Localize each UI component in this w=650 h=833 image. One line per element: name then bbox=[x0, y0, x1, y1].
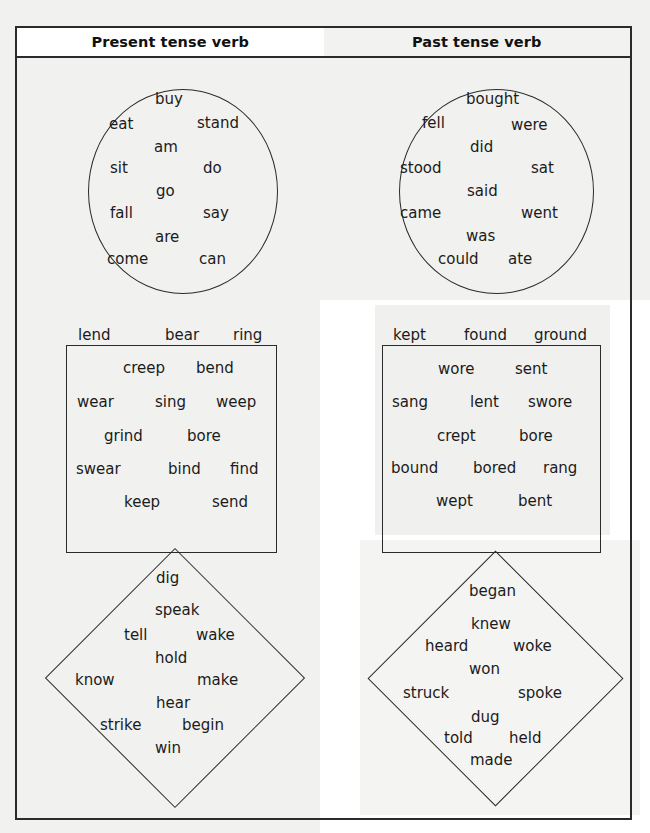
verb-word: ring bbox=[233, 328, 262, 343]
verb-word: lent bbox=[470, 395, 499, 410]
verb-word: keep bbox=[124, 495, 160, 510]
verb-word: held bbox=[509, 731, 541, 746]
verb-word: creep bbox=[123, 361, 165, 376]
verb-word: found bbox=[464, 328, 507, 343]
verb-word: weep bbox=[216, 395, 256, 410]
verb-word: rang bbox=[543, 461, 577, 476]
verb-word: wept bbox=[436, 494, 473, 509]
verb-word: sit bbox=[110, 161, 128, 176]
verb-word: begin bbox=[182, 718, 224, 733]
table-header-row: Present tense verb Past tense verb bbox=[17, 28, 630, 58]
verb-word: dig bbox=[156, 571, 179, 586]
verb-word: speak bbox=[155, 603, 199, 618]
verb-word: won bbox=[469, 662, 500, 677]
verb-word: ate bbox=[508, 252, 532, 267]
verb-word: wake bbox=[196, 628, 235, 643]
verb-word: are bbox=[155, 230, 179, 245]
verb-word: heard bbox=[425, 639, 468, 654]
verb-word: did bbox=[470, 140, 493, 155]
verb-word: kept bbox=[393, 328, 426, 343]
verb-word: make bbox=[197, 673, 238, 688]
verb-word: hear bbox=[156, 696, 190, 711]
verb-word: bored bbox=[473, 461, 516, 476]
verb-word: dug bbox=[471, 710, 500, 725]
verb-word: sing bbox=[155, 395, 186, 410]
verb-word: said bbox=[467, 184, 498, 199]
verb-word: fall bbox=[110, 206, 133, 221]
verb-word: go bbox=[156, 184, 175, 199]
verb-word: wore bbox=[438, 362, 475, 377]
verb-word: crept bbox=[437, 429, 476, 444]
verb-word: win bbox=[155, 741, 181, 756]
verb-word: told bbox=[444, 731, 473, 746]
verb-word: were bbox=[511, 118, 548, 133]
verb-word: strike bbox=[100, 718, 141, 733]
verb-word: find bbox=[230, 462, 258, 477]
verb-word: grind bbox=[104, 429, 143, 444]
verb-word: sent bbox=[515, 362, 547, 377]
verb-word: know bbox=[75, 673, 115, 688]
verb-word: can bbox=[199, 252, 226, 267]
verb-table-frame: Present tense verb Past tense verb buyea… bbox=[15, 26, 632, 820]
verb-word: knew bbox=[471, 617, 511, 632]
verb-word: bear bbox=[165, 328, 199, 343]
verb-word: struck bbox=[403, 686, 449, 701]
verb-word: bound bbox=[391, 461, 438, 476]
verb-word: spoke bbox=[518, 686, 562, 701]
verb-word: began bbox=[469, 584, 516, 599]
verb-word: bent bbox=[518, 494, 552, 509]
verb-word: sat bbox=[531, 161, 554, 176]
verb-word: made bbox=[470, 753, 513, 768]
verb-word: swore bbox=[528, 395, 572, 410]
verb-word: say bbox=[203, 206, 229, 221]
verb-word: bend bbox=[196, 361, 234, 376]
table-body: buyeatstandamsitdogofallsayarecomecanbou… bbox=[17, 58, 630, 818]
verb-word: bore bbox=[519, 429, 553, 444]
column-header-past-tense: Past tense verb bbox=[324, 28, 631, 56]
verb-word: woke bbox=[513, 639, 552, 654]
verb-word: buy bbox=[155, 92, 183, 107]
column-header-present-tense: Present tense verb bbox=[17, 28, 324, 56]
verb-word: lend bbox=[78, 328, 110, 343]
verb-word: sang bbox=[392, 395, 428, 410]
verb-word: send bbox=[212, 495, 248, 510]
verb-word: do bbox=[203, 161, 222, 176]
verb-word: hold bbox=[155, 651, 187, 666]
verb-word: bind bbox=[168, 462, 201, 477]
verb-word: came bbox=[400, 206, 441, 221]
verb-word: fell bbox=[422, 116, 445, 131]
verb-word: tell bbox=[124, 628, 147, 643]
verb-word: went bbox=[521, 206, 558, 221]
verb-words-layer: buyeatstandamsitdogofallsayarecomecanbou… bbox=[17, 58, 630, 818]
verb-word: stood bbox=[400, 161, 442, 176]
verb-word: could bbox=[438, 252, 479, 267]
worksheet-page: Present tense verb Past tense verb buyea… bbox=[0, 0, 650, 833]
verb-word: ground bbox=[534, 328, 587, 343]
verb-word: was bbox=[466, 229, 495, 244]
verb-word: eat bbox=[109, 117, 133, 132]
verb-word: wear bbox=[77, 395, 114, 410]
verb-word: stand bbox=[197, 116, 239, 131]
verb-word: bought bbox=[466, 92, 519, 107]
verb-word: am bbox=[154, 140, 178, 155]
verb-word: bore bbox=[187, 429, 221, 444]
verb-word: come bbox=[107, 252, 148, 267]
verb-word: swear bbox=[76, 462, 121, 477]
